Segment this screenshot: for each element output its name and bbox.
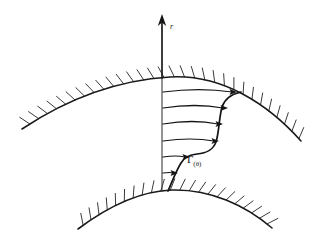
figure-root: r Γ(θ)	[0, 0, 327, 245]
velocity-profile-diagram: r Γ(θ)	[0, 0, 327, 245]
flow-arrow-shaft	[163, 173, 173, 174]
gamma-subscript: (θ)	[193, 160, 202, 168]
canvas-background	[0, 0, 327, 245]
